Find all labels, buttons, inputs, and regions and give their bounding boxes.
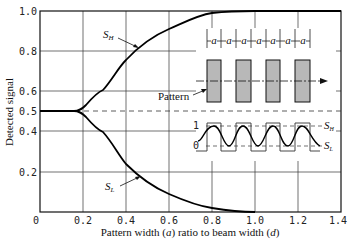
svg-text:1.2: 1.2 xyxy=(289,215,307,226)
svg-text:1: 1 xyxy=(193,120,199,131)
svg-text:1.0: 1.0 xyxy=(19,6,37,17)
svg-text:0.6: 0.6 xyxy=(19,86,37,97)
svg-text:0.8: 0.8 xyxy=(203,215,221,226)
y-axis-ticks: 1.0 0.8 0.6 0.5 0.4 0.2 xyxy=(19,6,37,178)
svg-text:0.4: 0.4 xyxy=(19,126,37,137)
svg-text:0.2: 0.2 xyxy=(74,215,92,226)
svg-text:a: a xyxy=(300,34,306,46)
y-axis-title: Detected signal xyxy=(3,78,15,146)
svg-text:0.6: 0.6 xyxy=(160,215,178,226)
svg-text:a: a xyxy=(270,34,276,46)
svg-text:a: a xyxy=(226,34,232,46)
svg-text:1.4: 1.4 xyxy=(329,215,347,226)
annotation-sl: SL xyxy=(105,176,141,194)
svg-text:0.8: 0.8 xyxy=(19,46,37,57)
svg-text:0.5: 0.5 xyxy=(19,106,37,117)
svg-text:SL: SL xyxy=(105,180,115,194)
annotation-sh: SH xyxy=(103,28,139,48)
x-axis-title: Pattern width (a) ratio to beam width (d… xyxy=(101,226,280,239)
svg-text:a: a xyxy=(211,34,217,46)
svg-text:1.0: 1.0 xyxy=(246,215,264,226)
svg-text:0.2: 0.2 xyxy=(19,167,37,178)
svg-text:0: 0 xyxy=(193,140,199,151)
svg-text:0: 0 xyxy=(33,215,39,226)
svg-text:a: a xyxy=(256,34,262,46)
svg-text:0.4: 0.4 xyxy=(117,215,135,226)
inset-pattern-label: Pattern xyxy=(158,90,190,102)
signal-chart: SH SL a a a a a a a Pattern xyxy=(0,0,348,239)
x-axis-ticks: 0 0.2 0.4 0.6 0.8 1.0 1.2 1.4 xyxy=(33,215,347,226)
svg-text:a: a xyxy=(241,34,247,46)
svg-text:SH: SH xyxy=(103,28,115,42)
svg-text:a: a xyxy=(285,34,291,46)
